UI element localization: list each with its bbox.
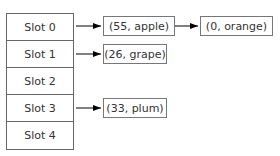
slot-0: Slot 0 [7,14,73,41]
slot-2: Slot 2 [7,68,73,95]
hash-table: Slot 0 Slot 1 Slot 2 Slot 3 Slot 4 [6,13,74,150]
entry-slot0-0: (55, apple) [103,16,175,36]
entry-slot0-1: (0, orange) [200,16,273,36]
entry-slot1-0: (26, grape) [103,44,167,64]
slot-3: Slot 3 [7,95,73,122]
slot-4: Slot 4 [7,122,73,149]
slot-1: Slot 1 [7,41,73,68]
entry-slot3-0: (33, plum) [103,98,167,118]
